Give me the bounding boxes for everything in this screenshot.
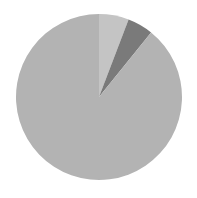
pie-chart	[0, 0, 197, 198]
pie-slice-2	[16, 14, 182, 180]
pie-chart-canvas	[0, 0, 197, 198]
